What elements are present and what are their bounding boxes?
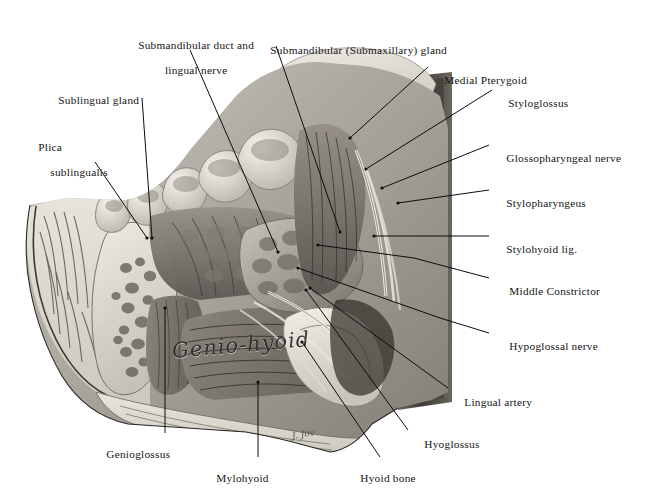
label-sublingual-gland: Sublingual gland bbox=[46, 81, 139, 119]
label-line-1: Styloglossus bbox=[508, 97, 568, 109]
label-line-1: Glossopharyngeal nerve bbox=[506, 152, 621, 164]
label-genioglossus: Genioglossus bbox=[94, 435, 170, 473]
label-plica-sublingualis: Plica sublingualis bbox=[26, 129, 108, 191]
label-styloglossus: Styloglossus bbox=[496, 84, 568, 122]
label-hypoglossal-nerve: Hypoglossal nerve bbox=[497, 327, 598, 365]
label-line-1: Submandibular (Submaxillary) gland bbox=[270, 44, 447, 56]
label-glossopharyngeal-nerve: Glossopharyngeal nerve bbox=[494, 139, 621, 177]
label-line-1: Sublingual gland bbox=[58, 94, 139, 106]
label-hyoglossus: Hyoglossus bbox=[412, 425, 480, 463]
label-line-1: Middle Constrictor bbox=[509, 285, 600, 297]
label-line-1: Lingual artery bbox=[464, 396, 532, 408]
label-line-1: Plica bbox=[38, 141, 62, 153]
label-submandibular-duct-and-lingual-nerve: Submandibular duct and lingual nerve bbox=[104, 27, 276, 89]
label-line-1: Mylohyoid bbox=[216, 472, 268, 484]
label-line-1: Hyoid bone bbox=[360, 472, 416, 484]
anatomical-plate: Genio-hyoid J. Jov bbox=[0, 0, 654, 498]
label-submandibular-submaxillary-gland: Submandibular (Submaxillary) gland bbox=[258, 31, 447, 69]
label-line-2: lingual nerve bbox=[165, 64, 228, 76]
label-lingual-artery: Lingual artery bbox=[452, 383, 532, 421]
label-middle-constrictor: Middle Constrictor bbox=[497, 272, 600, 310]
label-line-1: Submandibular duct and bbox=[138, 39, 254, 51]
label-stylopharyngeus: Stylopharyngeus bbox=[494, 184, 586, 222]
label-stylohyoid-lig: Stylohyoid lig. bbox=[494, 230, 577, 268]
label-line-1: Genioglossus bbox=[106, 448, 170, 460]
label-mylohyoid: Mylohyoid bbox=[204, 459, 269, 497]
label-line-1: Stylopharyngeus bbox=[506, 197, 586, 209]
label-hyoid-bone: Hyoid bone bbox=[348, 459, 416, 497]
label-line-1: Stylohyoid lig. bbox=[506, 243, 577, 255]
label-line-1: Hypoglossal nerve bbox=[509, 340, 598, 352]
label-line-2: sublingualis bbox=[38, 166, 108, 178]
label-line-1: Hyoglossus bbox=[424, 438, 479, 450]
